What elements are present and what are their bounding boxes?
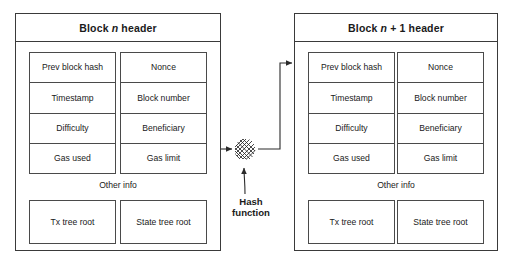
- field-prev-block-hash: Prev block hash: [30, 53, 115, 83]
- field-beneficiary: Beneficiary: [121, 114, 206, 144]
- field-difficulty: Difficulty: [309, 114, 394, 144]
- connector-hash-to-prev-block-hash: [258, 63, 292, 149]
- block-n-fields: Prev block hash Timestamp Difficulty Gas…: [16, 52, 220, 174]
- field-prev-block-hash: Prev block hash: [309, 53, 394, 83]
- field-beneficiary: Beneficiary: [398, 114, 483, 144]
- hash-label-line2: function: [232, 207, 270, 218]
- field-gas-limit: Gas limit: [398, 144, 483, 173]
- block-n-roots: Tx tree root State tree root: [16, 200, 220, 244]
- field-timestamp: Timestamp: [30, 83, 115, 113]
- block-n-title: Block n header: [79, 22, 156, 34]
- block-n-container: Block n header Prev block hash Timestamp…: [15, 13, 221, 251]
- field-tx-tree-root: Tx tree root: [29, 200, 116, 244]
- field-block-number: Block number: [121, 83, 206, 113]
- field-gas-used: Gas used: [309, 144, 394, 173]
- field-state-tree-root: State tree root: [120, 200, 207, 244]
- hash-function-label: Hash function: [219, 196, 283, 218]
- connector-hash-label-leader: [244, 168, 245, 194]
- hash-mesh-icon: [233, 137, 257, 161]
- block-n-header-band: Block n header: [16, 14, 220, 42]
- block-n-other-info-label: Other info: [16, 180, 220, 190]
- field-block-number: Block number: [398, 83, 483, 113]
- field-nonce: Nonce: [121, 53, 206, 83]
- block-n-right-column: Nonce Block number Beneficiary Gas limit: [120, 52, 207, 174]
- block-n-plus-1-container: Block n + 1 header Prev block hash Times…: [294, 13, 498, 251]
- hash-label-line1: Hash: [239, 196, 262, 207]
- diagram-canvas: Block n header Prev block hash Timestamp…: [0, 0, 512, 267]
- field-tx-tree-root: Tx tree root: [308, 200, 395, 244]
- block-n-plus-1-title: Block n + 1 header: [348, 22, 444, 34]
- field-gas-limit: Gas limit: [121, 144, 206, 173]
- block-n-plus-1-right-column: Nonce Block number Beneficiary Gas limit: [397, 52, 484, 174]
- field-gas-used: Gas used: [30, 144, 115, 173]
- block-n-plus-1-fields: Prev block hash Timestamp Difficulty Gas…: [295, 52, 497, 174]
- block-n-plus-1-variable: n: [381, 22, 388, 34]
- block-n-plus-1-roots: Tx tree root State tree root: [295, 200, 497, 244]
- block-n-plus-1-left-column: Prev block hash Timestamp Difficulty Gas…: [308, 52, 395, 174]
- block-n-left-column: Prev block hash Timestamp Difficulty Gas…: [29, 52, 116, 174]
- block-n-plus-1-header-band: Block n + 1 header: [295, 14, 497, 42]
- block-n-plus-1-other-info-label: Other info: [295, 180, 497, 190]
- field-nonce: Nonce: [398, 53, 483, 83]
- field-difficulty: Difficulty: [30, 114, 115, 144]
- field-timestamp: Timestamp: [309, 83, 394, 113]
- block-n-variable: n: [112, 22, 119, 34]
- field-state-tree-root: State tree root: [397, 200, 484, 244]
